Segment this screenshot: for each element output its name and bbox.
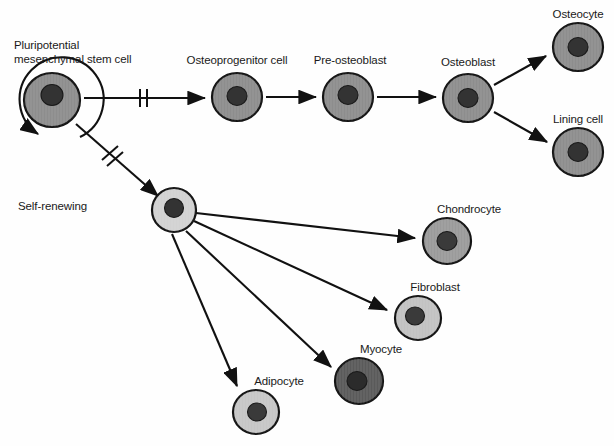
nucleus <box>347 372 367 391</box>
cell-osteoprogenitor-cell <box>212 73 262 121</box>
diagram-canvas: Pluripotential mesenchymal stem cell Sel… <box>0 0 614 446</box>
cell-myocyte <box>335 358 383 404</box>
nucleus <box>458 89 478 108</box>
nucleus <box>227 87 247 106</box>
label-myocyte: Myocyte <box>360 343 402 357</box>
label-chondrocyte: Chondrocyte <box>437 203 501 217</box>
arrow-progenitor-to-chondrocyte <box>196 213 415 238</box>
cell-chondrocyte <box>423 218 471 264</box>
cell-group <box>24 23 603 434</box>
label-fibroblast: Fibroblast <box>410 281 460 295</box>
cell-pluripotential-mesenchymal-stem-cell <box>24 73 80 127</box>
cell-fibroblast <box>395 296 441 340</box>
nucleus <box>437 232 457 251</box>
label-pre-osteoblast: Pre-osteoblast <box>314 54 387 68</box>
nucleus <box>338 86 358 105</box>
label-osteocyte: Osteocyte <box>553 8 604 22</box>
label-pluripotential-stem-cell-line2: mesenchymal stem cell <box>14 53 131 67</box>
cell-lining-cell <box>553 128 603 176</box>
nucleus <box>165 199 184 218</box>
cell-pre-osteoblast <box>323 73 373 121</box>
cell-mesenchymal-progenitor <box>152 188 196 232</box>
diagram-graphics <box>0 0 614 446</box>
label-osteoprogenitor-cell: Osteoprogenitor cell <box>187 54 288 68</box>
cell-osteoblast <box>443 74 493 122</box>
label-lining-cell: Lining cell <box>553 113 603 127</box>
nucleus <box>248 403 267 421</box>
label-self-renewing: Self-renewing <box>18 200 87 214</box>
label-adipocyte: Adipocyte <box>254 375 304 389</box>
arrow-stem-to-progenitor <box>76 124 158 196</box>
nucleus <box>568 38 588 57</box>
label-osteoblast: Osteoblast <box>441 56 495 70</box>
cell-osteocyte <box>553 23 603 71</box>
arrow-osteoblast-to-osteocyte <box>494 56 546 85</box>
nucleus <box>41 85 63 106</box>
cell-adipocyte <box>233 390 279 434</box>
arrow-osteoblast-to-lining-cell <box>494 112 547 142</box>
label-pluripotential-stem-cell-line1: Pluripotential <box>14 39 79 53</box>
nucleus <box>568 143 588 162</box>
arrow-progenitor-to-adipocyte <box>172 234 237 386</box>
nucleus <box>406 307 425 325</box>
